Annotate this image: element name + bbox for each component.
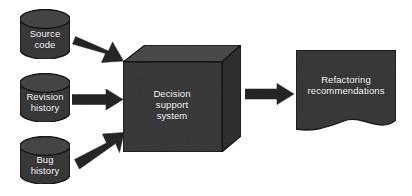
cylinder-top <box>20 10 70 29</box>
node-decision-support-system[interactable] <box>123 45 241 152</box>
cylinder-top <box>20 74 70 93</box>
arrow-dss-to-recommendations <box>245 84 294 105</box>
cube-front-face <box>123 62 222 152</box>
diagram-graphics <box>0 0 412 196</box>
document-shape <box>296 50 396 130</box>
node-revision-history[interactable] <box>20 74 70 123</box>
cylinder-top <box>20 137 70 156</box>
cube-right-face <box>222 45 241 152</box>
diagram-canvas: Source code Revision history Bug history… <box>0 0 412 196</box>
node-source-code[interactable] <box>20 10 70 60</box>
cube-top-face <box>123 45 241 62</box>
arrow-bug-history-to-dss <box>75 133 125 170</box>
arrow-revision-history-to-dss <box>72 89 123 110</box>
node-bug-history[interactable] <box>20 137 70 185</box>
arrow-source-code-to-dss <box>73 37 124 63</box>
node-refactoring-recommendations[interactable] <box>296 50 396 130</box>
